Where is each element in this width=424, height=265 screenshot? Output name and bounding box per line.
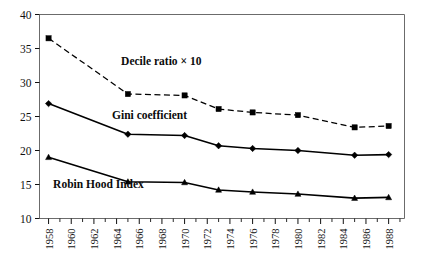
series-label: Decile ratio × 10 (121, 55, 202, 67)
data-point-marker (250, 110, 255, 115)
y-axis-tick-label: 10 (20, 213, 32, 225)
x-axis-tick-label: 1966 (134, 229, 145, 250)
y-axis-tick-label: 20 (20, 145, 32, 157)
x-axis-tick-label: 1958 (44, 229, 55, 250)
data-point-marker (295, 113, 300, 118)
x-axis-tick-label: 1972 (202, 229, 213, 250)
data-point-marker (352, 125, 357, 130)
y-axis-tick-label: 25 (20, 111, 32, 123)
x-axis-tick-label: 1986 (361, 229, 372, 250)
data-point-marker (125, 91, 130, 96)
chart-background (0, 0, 424, 265)
x-axis-tick-label: 1962 (89, 229, 100, 250)
x-axis-tick-label: 1982 (316, 229, 327, 250)
x-axis-tick-label: 1960 (66, 229, 77, 250)
x-axis-tick-label: 1970 (180, 229, 191, 250)
x-axis-tick-label: 1974 (225, 228, 236, 250)
series-label: Robin Hood Index (53, 178, 144, 190)
x-axis-tick-label: 1978 (270, 229, 281, 250)
x-axis-tick-label: 1964 (112, 228, 123, 250)
chart-container: 10152025303540 1958196019621964196619681… (0, 0, 424, 265)
y-axis-tick-label: 40 (20, 9, 32, 21)
x-axis-tick-label: 1968 (157, 229, 168, 250)
data-point-marker (46, 36, 51, 41)
y-axis-tick-label: 30 (20, 77, 32, 89)
data-point-marker (386, 123, 391, 128)
x-axis-tick-label: 1976 (248, 229, 259, 250)
series-label: Gini coefficient (112, 109, 187, 121)
x-axis-tick-label: 1984 (338, 228, 349, 250)
y-axis-tick-label: 15 (20, 179, 32, 191)
x-axis-tick-label: 1988 (384, 229, 395, 250)
data-point-marker (182, 93, 187, 98)
line-chart: 10152025303540 1958196019621964196619681… (0, 0, 424, 265)
y-axis-tick-label: 35 (20, 43, 32, 55)
x-axis-tick-label: 1980 (293, 229, 304, 250)
data-point-marker (216, 106, 221, 111)
